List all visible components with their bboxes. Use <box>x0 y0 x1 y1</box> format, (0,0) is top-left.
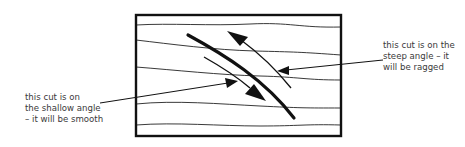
shallow-label-line-1: this cut is on <box>25 92 103 103</box>
steep-label-line-1: this cut is on the <box>383 40 455 51</box>
steep-label-line-3: will be ragged <box>383 62 455 73</box>
shallow-cut-label: this cut is on the shallow angle – it wi… <box>25 92 103 125</box>
shallow-label-line-2: the shallow angle <box>25 103 103 114</box>
steep-label-line-2: steep angle – it <box>383 51 455 62</box>
steep-cut-label: this cut is on the steep angle – it will… <box>383 40 455 73</box>
shallow-label-line-3: – it will be smooth <box>25 114 103 125</box>
steep-label-pointer <box>277 60 383 75</box>
steep-cut-arrow <box>227 31 291 88</box>
shallow-label-pointer <box>100 78 238 103</box>
